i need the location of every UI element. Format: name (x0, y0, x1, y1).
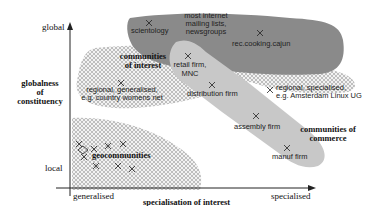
y-axis-title-line: constituency (12, 97, 68, 106)
assembly-label: assembly firm (234, 123, 280, 131)
geocommunities-label: geocommunities (92, 151, 151, 160)
y-axis-arrow (67, 22, 73, 30)
point-label-line: newsgroups (176, 28, 236, 36)
x-axis-title: specialisation of interest (143, 198, 230, 206)
retail-label: retail firm, MNC (170, 60, 210, 78)
point-label-line: retail firm, (170, 60, 210, 69)
distribution-label: distribution firm (187, 90, 238, 98)
diagram: global local globalness of constituency … (0, 0, 379, 206)
y-axis-bottom-label: local (45, 164, 63, 173)
internet-label: most internet mailing lists, newsgroups (176, 12, 236, 36)
x-axis-left-label: generalised (73, 192, 114, 201)
rec-cooking-label: rec.cooking.cajun (232, 40, 290, 48)
x-axis-right-label: specialised (271, 192, 311, 201)
y-axis-title: globalness of constituency (12, 79, 68, 106)
regional-generalised-label: regional, generalised, e.g. country wome… (76, 86, 168, 102)
manuf-label: manuf firm (272, 153, 307, 161)
communities-of-commerce-label: communities of commerce (288, 125, 368, 143)
y-axis-top-label: global (42, 23, 65, 32)
communities-of-interest-label: communities of interest (108, 52, 178, 70)
point-label-line: MNC (170, 69, 210, 78)
point-label-line: e.g. country womens net (76, 94, 168, 102)
region-label-line: of interest (108, 61, 178, 70)
region-label-line: commerce (288, 134, 368, 143)
regional-specialised-label: regional, specialised, e.g. Amsterdam Li… (276, 84, 362, 100)
scientology-label: scientology (131, 27, 169, 35)
point-label-line: e.g. Amsterdam Linux UG (276, 92, 362, 100)
